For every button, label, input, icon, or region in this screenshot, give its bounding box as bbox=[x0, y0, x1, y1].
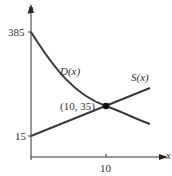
chart-canvas bbox=[0, 0, 172, 176]
x-axis-label: x bbox=[166, 150, 171, 161]
tick-label-385: 385 bbox=[8, 27, 25, 38]
tick-label-10: 10 bbox=[100, 163, 111, 174]
supply-label: S(x) bbox=[131, 72, 149, 83]
equilibrium-label: (10, 35) bbox=[60, 101, 95, 112]
equilibrium-point bbox=[103, 103, 110, 110]
y-axis-label: p bbox=[28, 3, 34, 14]
supply-line bbox=[31, 88, 150, 136]
demand-label: D(x) bbox=[60, 66, 80, 77]
tick-label-15: 15 bbox=[15, 131, 26, 142]
supply-demand-chart: p x 385 15 10 D(x) S(x) (10, 35) bbox=[0, 0, 172, 176]
